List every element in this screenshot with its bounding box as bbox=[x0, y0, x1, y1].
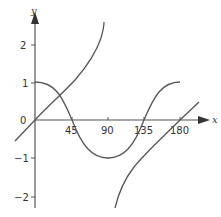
y-tick-label-m2: −2 bbox=[14, 192, 29, 203]
y-tick-label-m1: −1 bbox=[14, 153, 29, 164]
y-tick-label-1: 1 bbox=[22, 78, 28, 89]
chart: y x 2 1 0 −1 −2 45 90 135 180 bbox=[0, 0, 221, 217]
curve-tangent-right bbox=[115, 102, 199, 208]
x-axis-arrow-icon bbox=[198, 116, 210, 124]
origin-label: 0 bbox=[20, 115, 26, 126]
y-axis-label: y bbox=[30, 5, 37, 16]
x-axis-label: x bbox=[212, 114, 218, 125]
x-tick-label-135: 135 bbox=[134, 125, 153, 136]
x-tick-label-90: 90 bbox=[101, 125, 114, 136]
y-tick-label-2: 2 bbox=[20, 40, 26, 51]
